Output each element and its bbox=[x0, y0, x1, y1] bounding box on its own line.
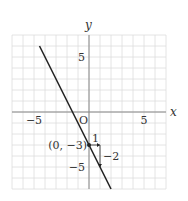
origin-label: O bbox=[79, 114, 88, 127]
x-tick-label: −5 bbox=[26, 114, 42, 127]
x-axis-label: x bbox=[170, 105, 177, 119]
y-intercept-point bbox=[87, 143, 91, 147]
x-tick-label: 5 bbox=[141, 114, 148, 127]
y-axis-label: y bbox=[84, 18, 92, 32]
y-tick-label: 5 bbox=[78, 51, 85, 64]
point-label: (0, −3) bbox=[48, 139, 87, 152]
run-label: 1 bbox=[92, 132, 99, 145]
rise-label: −2 bbox=[103, 150, 119, 163]
coordinate-plane: x y O −555−5 1−2 (0, −3) bbox=[0, 0, 188, 201]
y-tick-label: −5 bbox=[69, 161, 85, 174]
